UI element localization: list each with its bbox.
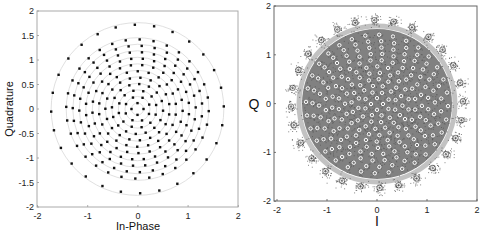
- noise-sample: [423, 97, 424, 98]
- symbol-point: [175, 113, 177, 115]
- noise-sample: [346, 94, 347, 95]
- noise-sample: [335, 69, 336, 70]
- noise-sample: [365, 130, 366, 131]
- noise-sample: [450, 150, 451, 151]
- noise-sample: [385, 98, 386, 99]
- noise-sample: [401, 71, 402, 72]
- noise-sample: [381, 36, 382, 37]
- noise-sample: [357, 183, 358, 184]
- noise-sample: [364, 87, 365, 88]
- noise-sample: [401, 146, 402, 147]
- noise-sample: [380, 149, 381, 150]
- noise-sample: [403, 109, 404, 110]
- noise-sample: [338, 89, 339, 90]
- noise-sample: [316, 37, 317, 38]
- symbol-point: [166, 44, 168, 46]
- noise-sample: [344, 41, 345, 42]
- noise-sample: [309, 97, 310, 98]
- noise-sample: [337, 35, 338, 36]
- noise-sample: [391, 45, 392, 46]
- noise-sample: [326, 176, 327, 177]
- symbol-point: [125, 144, 127, 146]
- noise-sample: [383, 190, 384, 191]
- noise-sample: [349, 106, 350, 107]
- noise-sample: [333, 135, 334, 136]
- y-tick-label: 0: [266, 99, 271, 109]
- noise-sample: [437, 75, 438, 76]
- noise-sample: [402, 114, 403, 115]
- noise-sample: [413, 128, 414, 129]
- noise-sample: [434, 79, 435, 80]
- symbol-point: [111, 88, 113, 90]
- noise-sample: [374, 99, 375, 100]
- noise-sample: [385, 64, 386, 65]
- noise-sample: [402, 139, 403, 140]
- noise-sample: [395, 191, 396, 192]
- noise-sample: [440, 114, 441, 115]
- noise-sample: [374, 188, 375, 189]
- noise-sample: [362, 93, 363, 94]
- noise-sample: [363, 120, 364, 121]
- noise-sample: [411, 177, 412, 178]
- noise-sample: [457, 143, 458, 144]
- noise-sample: [307, 82, 308, 83]
- noise-sample: [404, 187, 405, 188]
- symbol-point: [193, 78, 195, 80]
- noise-sample: [326, 119, 327, 120]
- noise-sample: [397, 90, 398, 91]
- noise-sample: [384, 185, 385, 186]
- symbol-point: [120, 162, 122, 164]
- noise-sample: [295, 120, 296, 121]
- noise-sample: [359, 62, 360, 63]
- noise-sample: [329, 157, 330, 158]
- noise-sample: [424, 42, 425, 43]
- noise-sample: [388, 155, 389, 156]
- noise-sample: [304, 72, 305, 73]
- noise-sample: [291, 92, 292, 93]
- symbol-point: [129, 51, 131, 53]
- symbol-point: [125, 39, 127, 41]
- noise-sample: [420, 150, 421, 151]
- noise-sample: [311, 80, 312, 81]
- noise-sample: [396, 39, 397, 40]
- noise-sample: [405, 109, 406, 110]
- noise-sample: [322, 120, 323, 121]
- noise-sample: [425, 126, 426, 127]
- noise-sample: [402, 187, 403, 188]
- noise-sample: [385, 116, 386, 117]
- noise-sample: [339, 86, 340, 87]
- noise-sample: [385, 62, 386, 63]
- noise-cluster-core: [376, 185, 382, 191]
- noise-sample: [341, 184, 342, 185]
- noise-cluster-core: [352, 20, 358, 26]
- noise-sample: [359, 168, 360, 169]
- noise-sample: [398, 69, 399, 70]
- noise-sample: [406, 163, 407, 164]
- noise-sample: [381, 90, 382, 91]
- noise-sample: [370, 177, 371, 178]
- noise-sample: [369, 37, 370, 38]
- symbol-point: [78, 67, 80, 69]
- noise-sample: [425, 148, 426, 149]
- symbol-point: [99, 132, 101, 134]
- noise-sample: [329, 65, 330, 66]
- noise-sample: [405, 50, 406, 51]
- noise-sample: [335, 59, 336, 60]
- noise-sample: [309, 130, 310, 131]
- noise-sample: [425, 130, 426, 131]
- noise-sample: [389, 17, 390, 18]
- noise-sample: [397, 20, 398, 21]
- noise-sample: [437, 72, 438, 73]
- noise-sample: [460, 124, 461, 125]
- noise-sample: [375, 151, 376, 152]
- symbol-point: [70, 132, 72, 134]
- noise-sample: [335, 86, 336, 87]
- noise-sample: [347, 67, 348, 68]
- noise-sample: [385, 51, 386, 52]
- noise-sample: [333, 62, 334, 63]
- noise-sample: [349, 170, 350, 171]
- noise-sample: [352, 144, 353, 145]
- noise-sample: [356, 117, 357, 118]
- symbol-point: [119, 81, 121, 83]
- noise-sample: [395, 95, 396, 96]
